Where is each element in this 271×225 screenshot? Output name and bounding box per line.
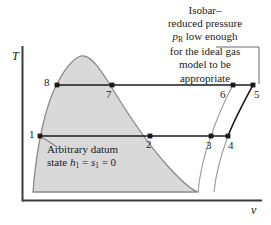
isobar-annotation-line-4: for the ideal gas	[170, 45, 241, 57]
state-marker-7	[110, 83, 115, 88]
isobar-annotation-line-2: reduced pressure	[168, 17, 242, 29]
isobar-annotation-line-1: Isobar–	[189, 4, 222, 16]
state-label-8: 8	[44, 76, 50, 89]
state-marker-8	[55, 83, 60, 88]
datum-annotation-equals-1: =	[79, 156, 91, 168]
y-axis-label: T	[12, 49, 19, 63]
isobar-annotation: Isobar– reduced pressure pR low enough f…	[146, 4, 264, 85]
datum-annotation-equals-2: = 0	[99, 156, 116, 168]
state-marker-4	[226, 134, 231, 139]
state-marker-1	[38, 134, 43, 139]
state-label-6: 6	[220, 88, 226, 101]
isobar-annotation-line-5: model to be	[179, 58, 231, 70]
isobar-annotation-line-3-rest: low enough	[183, 30, 237, 42]
process-line-4-5	[228, 85, 253, 136]
state-label-5: 5	[254, 88, 260, 101]
datum-annotation-line-1: Arbitrary datum	[47, 143, 118, 155]
datum-annotation-state-word: state	[47, 156, 70, 168]
isobar-annotation-line-6: appropriate	[180, 72, 230, 84]
state-label-3: 3	[206, 139, 212, 152]
state-label-1: 1	[29, 128, 35, 141]
state-label-7: 7	[106, 88, 112, 101]
state-marker-3	[209, 134, 214, 139]
datum-annotation: Arbitrary datum state h1 = s1 = 0	[47, 143, 155, 170]
x-axis-label: v	[251, 203, 256, 217]
t-v-diagram-figure: T v Isobar– reduced pressure pR low enou…	[0, 0, 271, 225]
state-label-4: 4	[228, 139, 234, 152]
state-label-2: 2	[146, 138, 152, 151]
